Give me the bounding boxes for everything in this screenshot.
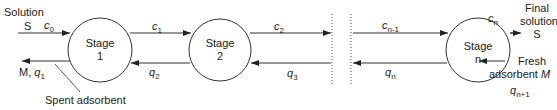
inlet-label: Solution — [4, 6, 44, 18]
c0-label: c0 — [44, 19, 54, 36]
q3-label: q3 — [287, 67, 298, 84]
spent-adsorbent-label: Spent adsorbent — [45, 94, 126, 106]
qn1-label: qn+1 — [510, 84, 530, 101]
fresh-adsorbent-label: Fresh — [508, 55, 556, 68]
cn-1-label: cn-1 — [382, 19, 399, 36]
final-solution-label: Final solution S — [520, 2, 554, 41]
q2-label: q2 — [149, 66, 160, 83]
stage-2-label: Stage2 — [198, 37, 242, 63]
fresh-adsorbent-label-2: adsorbent M — [489, 68, 550, 80]
c2-label: c2 — [274, 20, 284, 37]
inlet-stream-symbol: S — [24, 20, 31, 32]
outlet-solid-label: M, q1 — [19, 66, 45, 83]
qn-label: qn — [385, 66, 396, 83]
stage-n-label: Stagen — [456, 40, 500, 66]
c1-label: c1 — [152, 20, 162, 37]
cn-label: cn — [488, 12, 498, 29]
stage-1-label: Stage1 — [78, 37, 122, 63]
